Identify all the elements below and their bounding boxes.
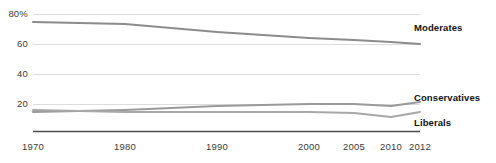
series-label-moderates: Moderates xyxy=(414,23,462,33)
series-label-liberals: Liberals xyxy=(414,118,451,128)
x-axis-tick-2000: 2000 xyxy=(289,142,329,152)
x-axis-tick-2012: 2012 xyxy=(400,142,440,152)
x-axis-tick-1980: 1980 xyxy=(105,142,145,152)
gridlines xyxy=(33,15,420,105)
x-axis-tick-1990: 1990 xyxy=(197,142,237,152)
series-line-liberals xyxy=(33,110,420,117)
y-axis-tick-60: 60 xyxy=(0,39,28,49)
y-axis-tick-40: 40 xyxy=(0,69,28,79)
series-line-moderates xyxy=(33,22,420,44)
y-axis-tick-80: 80% xyxy=(0,9,28,19)
x-axis-tick-1970: 1970 xyxy=(13,142,53,152)
x-axis-tick-2005: 2005 xyxy=(334,142,374,152)
series-label-conservatives: Conservatives xyxy=(414,93,480,103)
chart-container: 80% 60 40 20 1970 1980 1990 2000 2005 20… xyxy=(0,0,496,163)
series-lines xyxy=(33,22,420,117)
y-axis-tick-20: 20 xyxy=(0,99,28,109)
